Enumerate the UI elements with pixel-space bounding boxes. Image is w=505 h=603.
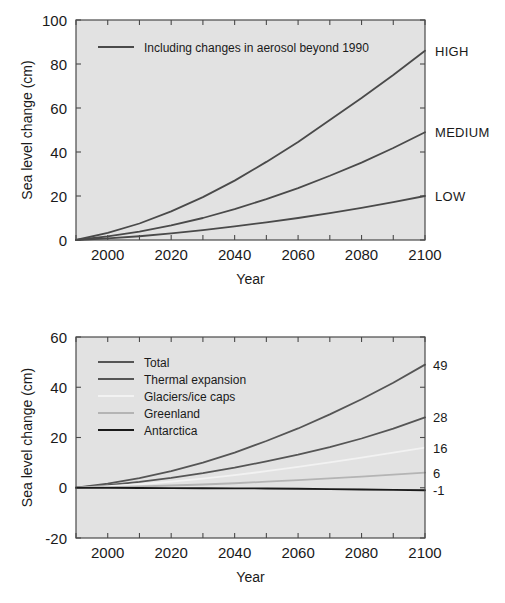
y-axis-title: Sea level change (cm) [19, 368, 35, 507]
ytick-label: -20 [45, 530, 67, 547]
ytick-label: 20 [50, 429, 67, 446]
legend-label: Greenland [144, 407, 200, 421]
sea-level-figure: 200020202040206020802100020406080100Year… [0, 0, 505, 603]
y-axis-title: Sea level change (cm) [19, 60, 35, 199]
legend-label: Antarctica [144, 424, 198, 438]
xtick-label: 2020 [154, 246, 187, 263]
xtick-label: 2080 [345, 544, 378, 561]
ytick-label: 0 [59, 232, 67, 249]
ytick-label: 20 [50, 188, 67, 205]
series-end-label: LOW [435, 189, 466, 204]
series-end-label: 49 [433, 358, 447, 373]
ytick-label: 100 [42, 12, 67, 29]
xtick-label: 2100 [408, 246, 441, 263]
xtick-label: 2040 [218, 544, 251, 561]
chart-top: 200020202040206020802100020406080100Year… [0, 0, 505, 300]
xtick-label: 2040 [218, 246, 251, 263]
chart-bottom: 200020202040206020802100-200204060YearSe… [0, 300, 505, 603]
xtick-label: 2000 [91, 544, 124, 561]
xtick-label: 2060 [281, 544, 314, 561]
x-axis-title: Year [236, 271, 265, 287]
legend-label: Total [144, 356, 169, 370]
chart-panel-top: 200020202040206020802100020406080100Year… [0, 0, 505, 300]
ytick-label: 40 [50, 144, 67, 161]
series-end-label: HIGH [435, 44, 469, 59]
legend-label: Glaciers/ice caps [144, 390, 235, 404]
plot-background-bottom [76, 337, 425, 538]
series-end-label: 6 [433, 466, 440, 481]
ytick-label: 80 [50, 56, 67, 73]
series-end-label: -1 [433, 483, 445, 498]
xtick-label: 2080 [345, 246, 378, 263]
xtick-label: 2060 [281, 246, 314, 263]
series-end-label: 28 [433, 410, 447, 425]
xtick-label: 2000 [91, 246, 124, 263]
x-axis-title: Year [236, 569, 265, 585]
ytick-label: 60 [50, 100, 67, 117]
chart-panel-bottom: 200020202040206020802100-200204060YearSe… [0, 300, 505, 603]
ytick-label: 60 [50, 329, 67, 346]
xtick-label: 2020 [154, 544, 187, 561]
legend-label: Thermal expansion [144, 373, 246, 387]
series-end-label: MEDIUM [435, 125, 490, 140]
ytick-label: 40 [50, 379, 67, 396]
xtick-label: 2100 [408, 544, 441, 561]
legend-label: Including changes in aerosol beyond 1990 [144, 41, 369, 55]
ytick-label: 0 [59, 479, 67, 496]
series-end-label: 16 [433, 441, 447, 456]
